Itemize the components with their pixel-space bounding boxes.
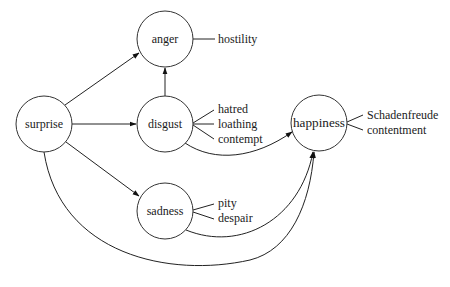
node-anger: anger [137, 11, 193, 67]
subtypes-sadness: pity despair [218, 196, 253, 225]
subtypes-anger: hostility [218, 32, 257, 46]
subtypes-happiness: Schadenfreude contentment [367, 108, 438, 137]
subtype-schadenfreude: Schadenfreude [367, 108, 438, 122]
subtype-hatred: hatred [218, 102, 248, 116]
subtype-pity: pity [218, 196, 237, 210]
subtype-despair: despair [218, 211, 253, 225]
node-label-sadness: sadness [147, 204, 184, 218]
edge-surprise-anger [65, 53, 139, 105]
node-surprise: surprise [16, 96, 72, 152]
emotion-diagram: anger surprise disgust happiness sadness… [0, 0, 450, 287]
node-label-surprise: surprise [25, 117, 63, 131]
subtype-contempt: contempt [218, 132, 263, 146]
subtypes-disgust: hatred loathing contempt [218, 102, 263, 146]
node-happiness: happiness [291, 95, 347, 151]
node-label-disgust: disgust [148, 117, 183, 131]
node-disgust: disgust [137, 96, 193, 152]
subtype-contentment: contentment [367, 123, 427, 137]
subtype-loathing: loathing [218, 117, 257, 131]
node-sadness: sadness [137, 183, 193, 239]
node-label-anger: anger [152, 32, 179, 46]
edge-surprise-sadness [66, 142, 139, 196]
subtype-hostility: hostility [218, 32, 257, 46]
node-label-happiness: happiness [293, 116, 345, 130]
